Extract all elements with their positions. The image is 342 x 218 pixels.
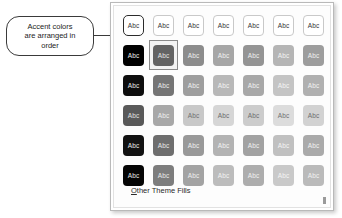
- theme-color-swatch-grid[interactable]: AbcAbcAbcAbcAbcAbcAbcAbcAbcAbcAbcAbcAbcA…: [119, 10, 328, 190]
- color-swatch[interactable]: Abc: [303, 135, 324, 156]
- swatch-cell-r1-c4[interactable]: Abc: [239, 40, 268, 70]
- color-swatch[interactable]: Abc: [243, 45, 264, 66]
- color-swatch[interactable]: Abc: [303, 15, 324, 36]
- color-swatch[interactable]: Abc: [273, 15, 294, 36]
- color-swatch[interactable]: Abc: [303, 75, 324, 96]
- swatch-cell-r1-c6[interactable]: Abc: [299, 40, 328, 70]
- color-swatch[interactable]: Abc: [123, 135, 144, 156]
- scroll-grip-icon[interactable]: [323, 197, 326, 204]
- swatch-cell-r3-c1[interactable]: Abc: [149, 100, 178, 130]
- color-swatch[interactable]: Abc: [153, 15, 174, 36]
- swatch-cell-r1-c5[interactable]: Abc: [269, 40, 298, 70]
- other-theme-fills-label-rest: ther Theme Fills: [137, 186, 191, 195]
- swatch-cell-r4-c1[interactable]: Abc: [149, 130, 178, 160]
- other-theme-fills-link[interactable]: Other Theme Fills: [131, 186, 190, 195]
- color-swatch[interactable]: Abc: [303, 45, 324, 66]
- swatch-cell-r0-c5[interactable]: Abc: [269, 10, 298, 40]
- swatch-cell-r2-c4[interactable]: Abc: [239, 70, 268, 100]
- swatch-cell-r1-c0[interactable]: Abc: [119, 40, 148, 70]
- swatch-cell-r2-c5[interactable]: Abc: [269, 70, 298, 100]
- swatch-cell-r0-c2[interactable]: Abc: [179, 10, 208, 40]
- color-swatch[interactable]: Abc: [273, 75, 294, 96]
- gallery-inner-frame: AbcAbcAbcAbcAbcAbcAbcAbcAbcAbcAbcAbcAbcA…: [113, 5, 331, 208]
- swatch-cell-r4-c5[interactable]: Abc: [269, 130, 298, 160]
- color-swatch[interactable]: Abc: [303, 105, 324, 126]
- swatch-cell-r3-c5[interactable]: Abc: [269, 100, 298, 130]
- swatch-cell-r0-c4[interactable]: Abc: [239, 10, 268, 40]
- swatch-cell-r2-c6[interactable]: Abc: [299, 70, 328, 100]
- swatch-cell-r3-c3[interactable]: Abc: [209, 100, 238, 130]
- swatch-cell-r2-c3[interactable]: Abc: [209, 70, 238, 100]
- color-swatch[interactable]: Abc: [213, 15, 234, 36]
- color-swatch[interactable]: Abc: [243, 15, 264, 36]
- color-swatch[interactable]: Abc: [153, 75, 174, 96]
- swatch-cell-r3-c4[interactable]: Abc: [239, 100, 268, 130]
- swatch-cell-r4-c3[interactable]: Abc: [209, 130, 238, 160]
- color-swatch[interactable]: Abc: [153, 135, 174, 156]
- other-theme-fills-row: Other Theme Fills: [114, 179, 330, 197]
- color-swatch[interactable]: Abc: [123, 105, 144, 126]
- color-swatch[interactable]: Abc: [153, 45, 174, 66]
- color-swatch[interactable]: Abc: [153, 105, 174, 126]
- swatch-cell-r3-c6[interactable]: Abc: [299, 100, 328, 130]
- color-swatch[interactable]: Abc: [273, 45, 294, 66]
- color-swatch[interactable]: Abc: [213, 135, 234, 156]
- color-swatch[interactable]: Abc: [213, 45, 234, 66]
- color-swatch[interactable]: Abc: [123, 45, 144, 66]
- swatch-cell-r2-c0[interactable]: Abc: [119, 70, 148, 100]
- swatch-cell-r4-c4[interactable]: Abc: [239, 130, 268, 160]
- color-swatch[interactable]: Abc: [273, 135, 294, 156]
- color-swatch[interactable]: Abc: [213, 75, 234, 96]
- color-swatch[interactable]: Abc: [243, 75, 264, 96]
- swatch-cell-r0-c3[interactable]: Abc: [209, 10, 238, 40]
- swatch-cell-r0-c1[interactable]: Abc: [149, 10, 178, 40]
- color-swatch[interactable]: Abc: [243, 135, 264, 156]
- color-swatch[interactable]: Abc: [213, 105, 234, 126]
- swatch-cell-r0-c6[interactable]: Abc: [299, 10, 328, 40]
- color-swatch[interactable]: Abc: [183, 75, 204, 96]
- swatch-cell-r2-c1[interactable]: Abc: [149, 70, 178, 100]
- color-swatch[interactable]: Abc: [123, 75, 144, 96]
- swatch-cell-r1-c3[interactable]: Abc: [209, 40, 238, 70]
- swatch-cell-r3-c2[interactable]: Abc: [179, 100, 208, 130]
- color-swatch[interactable]: Abc: [273, 105, 294, 126]
- theme-fills-gallery-panel: AbcAbcAbcAbcAbcAbcAbcAbcAbcAbcAbcAbcAbcA…: [110, 2, 334, 211]
- swatch-cell-r1-c2[interactable]: Abc: [179, 40, 208, 70]
- color-swatch[interactable]: Abc: [183, 105, 204, 126]
- color-swatch[interactable]: Abc: [123, 15, 144, 36]
- swatch-cell-r0-c0[interactable]: Abc: [119, 10, 148, 40]
- swatch-cell-r3-c0[interactable]: Abc: [119, 100, 148, 130]
- swatch-cell-r4-c6[interactable]: Abc: [299, 130, 328, 160]
- annotation-callout: Accent colors are arranged in order: [6, 16, 94, 56]
- swatch-cell-r4-c2[interactable]: Abc: [179, 130, 208, 160]
- swatch-cell-r2-c2[interactable]: Abc: [179, 70, 208, 100]
- color-swatch[interactable]: Abc: [243, 105, 264, 126]
- color-swatch[interactable]: Abc: [183, 15, 204, 36]
- swatch-cell-r4-c0[interactable]: Abc: [119, 130, 148, 160]
- color-swatch[interactable]: Abc: [183, 135, 204, 156]
- color-swatch[interactable]: Abc: [183, 45, 204, 66]
- swatch-cell-r1-c1[interactable]: Abc: [149, 40, 178, 70]
- annotation-callout-text: Accent colors are arranged in order: [20, 22, 81, 49]
